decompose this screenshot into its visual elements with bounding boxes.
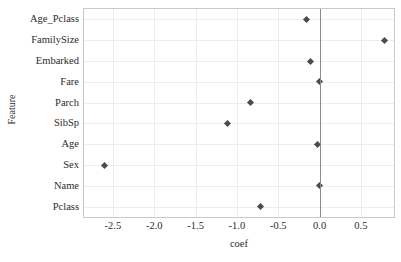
y-axis-tick-label: Age_Pclass (30, 14, 79, 25)
y-axis-tick-label: Fare (60, 77, 79, 88)
x-axis-tick-label: -0.5 (270, 221, 287, 232)
y-gridline (84, 165, 394, 166)
data-point-marker (307, 57, 314, 64)
y-axis-tick-label: Name (54, 181, 79, 192)
x-axis-tick-label: -2.0 (146, 221, 163, 232)
y-gridline (84, 82, 394, 83)
zero-reference-line (320, 9, 321, 217)
y-gridline (84, 207, 394, 208)
y-axis-tick-label: Age (62, 139, 80, 150)
y-axis-title: Feature (2, 0, 20, 218)
y-gridline (84, 144, 394, 145)
coefficient-scatter-chart: Feature -2.5-2.0-1.5-1.0-0.50.00.5Age_Pc… (0, 0, 401, 262)
y-gridline (84, 103, 394, 104)
x-axis-tick-label: -2.5 (105, 221, 122, 232)
y-gridline (84, 40, 394, 41)
y-axis-tick-label: FamilySize (31, 35, 79, 46)
data-point-marker (303, 16, 310, 23)
plot-area: -2.5-2.0-1.5-1.0-0.50.00.5Age_PclassFami… (83, 8, 395, 218)
y-gridline (84, 123, 394, 124)
y-axis-tick-label: SibSp (54, 118, 79, 129)
y-gridline (84, 61, 394, 62)
x-axis-tick-label: 0.5 (354, 221, 367, 232)
x-axis-tick-label: -1.5 (187, 221, 204, 232)
y-gridline (84, 19, 394, 20)
data-point-marker (224, 120, 231, 127)
data-point-marker (247, 99, 254, 106)
y-axis-tick-label: Parch (55, 97, 79, 108)
y-axis-title-text: Feature (6, 94, 17, 124)
x-axis-tick-label: -1.0 (229, 221, 246, 232)
y-gridline (84, 186, 394, 187)
x-axis-tick-label: 0.0 (313, 221, 326, 232)
y-axis-tick-label: Sex (63, 160, 79, 171)
data-point-marker (257, 203, 264, 210)
y-axis-tick-label: Embarked (36, 56, 79, 67)
data-point-marker (101, 161, 108, 168)
x-axis-title: coef (83, 238, 395, 249)
data-point-marker (381, 37, 388, 44)
y-axis-tick-label: Pclass (53, 201, 79, 212)
